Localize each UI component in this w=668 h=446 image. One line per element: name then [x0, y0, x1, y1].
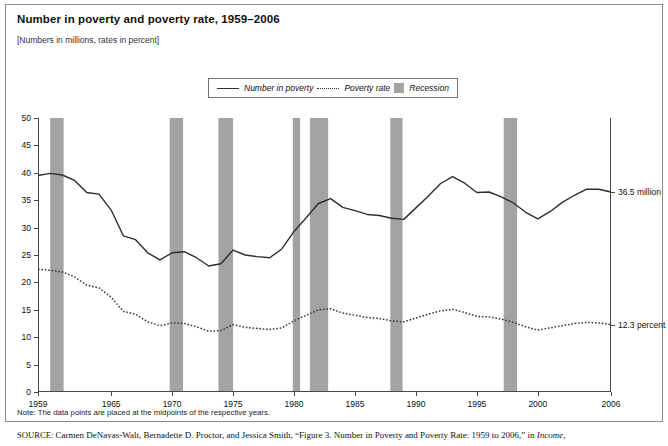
- y-axis-tick-label: 30: [0, 223, 31, 233]
- legend-label-number-in-poverty: Number in poverty: [244, 83, 313, 93]
- y-axis-tick-mark: [34, 145, 38, 146]
- dotted-line-icon: [317, 88, 339, 89]
- page-title: Number in poverty and poverty rate, 1959…: [17, 13, 280, 25]
- y-axis-tick-label: 50: [0, 113, 31, 123]
- y-axis-tick-mark: [34, 173, 38, 174]
- legend-item-number-in-poverty: Number in poverty: [217, 83, 313, 93]
- recession-band: [310, 118, 328, 392]
- annotation-number-in-poverty: 36.5 million: [618, 187, 661, 197]
- recession-band: [170, 118, 183, 392]
- x-axis-tick-label: 1980: [285, 399, 304, 409]
- source-prefix: SOURCE:: [17, 430, 53, 440]
- recession-band: [390, 118, 402, 392]
- recession-band: [504, 118, 517, 392]
- recession-band: [218, 118, 233, 392]
- x-axis-tick-label: 2006: [602, 399, 621, 409]
- source-italic: Income,: [537, 430, 566, 440]
- y-axis-tick-mark: [34, 310, 38, 311]
- x-axis-tick-mark: [111, 392, 112, 396]
- x-axis-tick-mark: [233, 392, 234, 396]
- y-axis-tick-label: 35: [0, 195, 31, 205]
- y-axis-tick-mark: [34, 200, 38, 201]
- legend-label-recession: Recession: [409, 83, 449, 93]
- plot-area: [38, 118, 611, 392]
- legend-item-poverty-rate: Poverty rate: [317, 83, 390, 93]
- recession-swatch-icon: [394, 83, 404, 93]
- y-axis-tick-label: 15: [0, 305, 31, 315]
- x-axis-tick-mark: [355, 392, 356, 396]
- y-axis-tick-label: 25: [0, 250, 31, 260]
- y-axis-tick-label: 10: [0, 332, 31, 342]
- solid-line-icon: [217, 88, 239, 89]
- x-axis-tick-label: 1990: [406, 399, 425, 409]
- y-axis-tick-label: 20: [0, 277, 31, 287]
- y-axis-tick-mark: [34, 365, 38, 366]
- chart-svg: [38, 118, 611, 392]
- figure-note: Note: The data points are placed at the …: [17, 408, 270, 417]
- x-axis-tick-label: 1985: [346, 399, 365, 409]
- source-text: Carmen DeNavas-Walt, Bernadette D. Proct…: [53, 430, 537, 440]
- y-axis-tick-label: 45: [0, 140, 31, 150]
- y-axis-tick-mark: [34, 118, 38, 119]
- figure-subtitle: [Numbers in millions, rates in percent]: [17, 35, 159, 45]
- y-axis-tick-label: 5: [0, 360, 31, 370]
- y-axis-tick-label: 40: [0, 168, 31, 178]
- recession-bands-group: [50, 118, 517, 392]
- legend-label-poverty-rate: Poverty rate: [344, 83, 390, 93]
- annotation-leader-tick: [611, 325, 615, 326]
- y-axis-tick-label: 0: [0, 387, 31, 397]
- y-axis-tick-mark: [34, 337, 38, 338]
- annotation-poverty-rate: 12.3 percent: [618, 320, 665, 330]
- y-axis-tick-mark: [34, 255, 38, 256]
- x-axis-tick-mark: [611, 392, 612, 396]
- x-axis-tick-mark: [538, 392, 539, 396]
- x-axis-tick-mark: [294, 392, 295, 396]
- figure-source: SOURCE: Carmen DeNavas-Walt, Bernadette …: [17, 430, 566, 440]
- annotation-leader-tick: [611, 192, 615, 193]
- recession-band: [50, 118, 63, 392]
- figure-container: Number in poverty and poverty rate, 1959…: [0, 0, 668, 446]
- x-axis-tick-mark: [38, 392, 39, 396]
- y-axis-tick-mark: [34, 282, 38, 283]
- x-axis-tick-label: 1995: [467, 399, 486, 409]
- x-axis-tick-mark: [477, 392, 478, 396]
- x-axis-tick-label: 2000: [528, 399, 547, 409]
- x-axis-tick-mark: [172, 392, 173, 396]
- chart-legend: Number in poverty Poverty rate Recession: [208, 78, 458, 98]
- x-axis-tick-mark: [416, 392, 417, 396]
- y-axis-tick-mark: [34, 228, 38, 229]
- recession-band: [293, 118, 300, 392]
- legend-item-recession: Recession: [394, 83, 449, 93]
